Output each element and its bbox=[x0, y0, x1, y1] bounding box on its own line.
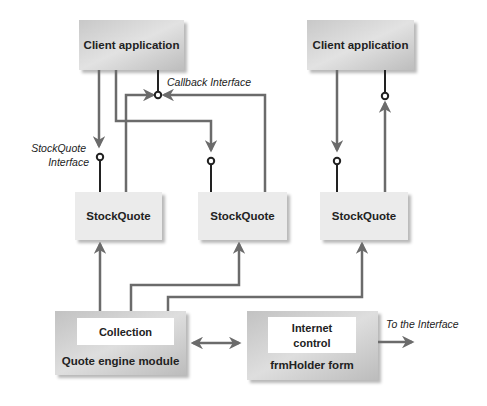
callback-interface-lollipop-icon bbox=[155, 92, 161, 98]
frmholder-form-label: frmHolder form bbox=[270, 359, 354, 371]
stockquote-box-3: StockQuote bbox=[320, 192, 408, 240]
frmholder-form-box: Internet control frmHolder form bbox=[247, 311, 378, 380]
stockquote-box-1: StockQuote bbox=[75, 192, 162, 240]
stockquote-interface-label-line2: Interface bbox=[48, 156, 89, 168]
to-the-interface-label: To the Interface bbox=[386, 318, 459, 330]
client-application-box-2-label: Client application bbox=[313, 39, 409, 51]
stockquote-box-2: StockQuote bbox=[198, 192, 287, 240]
client2-callback-interface-lollipop-icon bbox=[382, 93, 388, 99]
internet-control-label-line1: Internet bbox=[292, 322, 333, 334]
callback-interface-label: Callback Interface bbox=[167, 76, 251, 88]
architecture-diagram: Client application Client application St… bbox=[0, 0, 487, 406]
stockquote3-interface-lollipop-icon bbox=[334, 158, 340, 164]
connector-engine-to-stockquote3 bbox=[168, 244, 362, 311]
internet-control-label-line2: control bbox=[293, 337, 330, 349]
client-application-box-2: Client application bbox=[307, 20, 414, 70]
stockquote2-interface-lollipop-icon bbox=[208, 158, 214, 164]
quote-engine-module-box: Collection Quote engine module bbox=[55, 311, 186, 375]
stockquote-interface-label-line1: StockQuote bbox=[31, 142, 86, 154]
stockquote-box-2-label: StockQuote bbox=[210, 210, 275, 222]
client-application-box-1-label: Client application bbox=[84, 39, 180, 51]
connector-engine-to-stockquote2 bbox=[131, 244, 239, 311]
connector-stockquote2-callback bbox=[164, 95, 265, 192]
stockquote1-interface-lollipop-icon bbox=[97, 154, 103, 160]
quote-engine-module-label: Quote engine module bbox=[62, 355, 180, 367]
client-application-box-1: Client application bbox=[79, 20, 184, 70]
stockquote-box-3-label: StockQuote bbox=[332, 210, 397, 222]
collection-label: Collection bbox=[99, 326, 152, 338]
connector-stockquote1-callback bbox=[126, 95, 153, 192]
stockquote-box-1-label: StockQuote bbox=[86, 210, 151, 222]
